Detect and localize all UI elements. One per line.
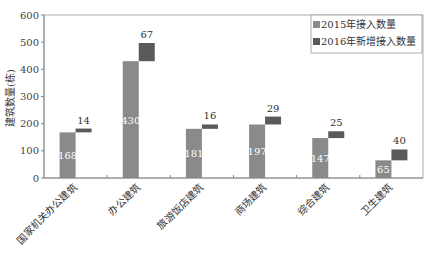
bar-value-2016: 16 [204, 110, 217, 121]
y-tick-label: 200 [20, 118, 39, 129]
bar-value-2016: 40 [393, 135, 406, 146]
bar-2016-increment [265, 117, 281, 125]
legend-swatch-2016 [313, 38, 320, 45]
bar-2016-increment [139, 43, 155, 61]
x-category-label: 卫生建筑 [358, 181, 395, 218]
bar-value-2015: 197 [248, 146, 267, 157]
bar-value-2016: 67 [140, 29, 153, 40]
bar-value-2015: 430 [121, 115, 140, 126]
legend-swatch-2015 [313, 21, 320, 28]
bar-value-2016: 25 [330, 117, 343, 128]
bar-value-2016: 29 [267, 103, 280, 114]
y-tick-label: 500 [20, 37, 39, 48]
bar-value-2015: 147 [311, 153, 330, 164]
legend-label-2015: 2015年接入数量 [321, 18, 396, 30]
bar-2016-increment [76, 129, 92, 133]
legend-label-2016: 2016年新增接入数量 [321, 35, 416, 47]
y-ticks: 0100200300400500600 [20, 10, 44, 184]
x-category-label: 国家机关办公建筑 [14, 181, 79, 246]
legend: 2015年接入数量 2016年新增接入数量 [311, 15, 422, 53]
bar-chart: 0100200300400500600 16814430671811619729… [0, 0, 430, 268]
bar-2016-increment [328, 131, 344, 138]
y-axis-label: 建筑数量(栋) [4, 69, 16, 127]
y-tick-label: 300 [20, 91, 39, 102]
x-category-label: 旅游饭店建筑 [154, 181, 205, 232]
x-tick-labels: 国家机关办公建筑办公建筑旅游饭店建筑商场建筑综合建筑卫生建筑 [14, 181, 395, 246]
bar-value-2015: 181 [184, 148, 203, 159]
x-category-label: 商场建筑 [232, 181, 269, 218]
bar-2016-increment [202, 124, 218, 128]
x-category-label: 综合建筑 [295, 181, 332, 218]
y-tick-label: 600 [20, 10, 39, 21]
bar-value-2015: 65 [377, 164, 390, 175]
y-tick-label: 400 [20, 64, 39, 75]
y-tick-label: 0 [33, 173, 39, 184]
bar-value-2016: 14 [77, 115, 90, 126]
bar-value-2015: 168 [58, 150, 77, 161]
bar-2016-increment [391, 149, 407, 160]
y-tick-label: 100 [20, 145, 39, 156]
x-category-label: 办公建筑 [105, 181, 142, 218]
